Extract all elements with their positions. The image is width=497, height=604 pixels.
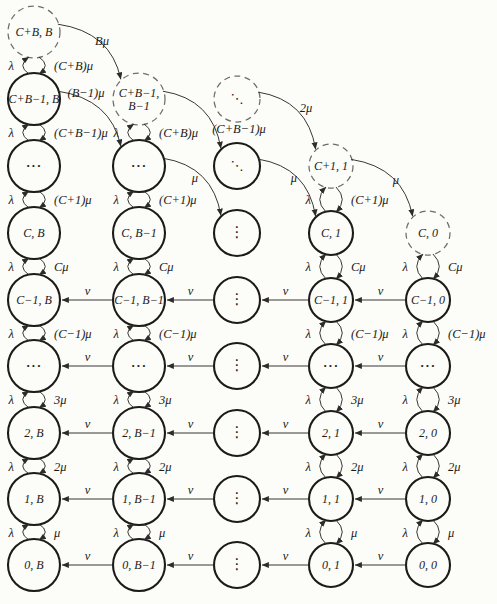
- arrival-rate-label: λ: [8, 193, 15, 207]
- nu-label: ν: [85, 417, 91, 431]
- service-arrow: [433, 454, 439, 478]
- service-arrow: [336, 254, 342, 279]
- state-node-2_B−1: 2, B−1: [113, 407, 165, 459]
- state-node-C−1_1: C−1, 1: [309, 278, 353, 322]
- arrival-arrow: [128, 124, 134, 141]
- arrival-rate-label: λ: [305, 526, 312, 540]
- nu-label: ν: [283, 483, 289, 497]
- state-label: ⋮: [230, 223, 245, 241]
- retrial-arrow-r8-c2: ν: [62, 483, 113, 499]
- arrival-arrow: [320, 454, 326, 478]
- state-node-⋱: ⋱: [214, 76, 260, 122]
- arrival-arrow: [128, 458, 134, 474]
- nu-label: ν: [188, 350, 194, 364]
- state-node-0_B: 0, B: [8, 539, 60, 591]
- state-node-C−1_B−1: C−1, B−1: [113, 274, 165, 326]
- service-rate-label: 2μ: [159, 460, 172, 474]
- service-arrow: [336, 520, 342, 544]
- state-label: C−1, 0: [411, 293, 445, 307]
- rate-pair-c5-r6: λ3μ: [402, 387, 461, 412]
- rate-pair-c2-r7: λ2μ: [113, 458, 172, 474]
- arrival-rate-label: λ: [402, 260, 409, 274]
- arrival-rate-label: λ: [113, 327, 120, 341]
- service-rate-label: (C−1)μ: [54, 327, 92, 341]
- state-node-···: ···: [8, 140, 60, 192]
- state-node-0_1: 0, 1: [309, 543, 353, 587]
- arrival-arrow: [417, 454, 423, 478]
- service-rate-label: μ: [447, 526, 454, 540]
- arrival-arrow: [320, 254, 326, 279]
- service-arrow: [39, 391, 45, 408]
- state-node-···: ···: [113, 340, 165, 392]
- service-arrow: [39, 458, 45, 474]
- arrival-rate-label: λ: [8, 260, 15, 274]
- retrial-arrow-r5-c5: ν: [355, 284, 406, 300]
- arrival-arrow: [128, 258, 134, 275]
- state-label: 2, 1: [322, 426, 340, 440]
- mu-diagonal-label: Bμ: [95, 34, 109, 48]
- state-label: ···: [131, 158, 147, 173]
- state-node-1_1: 1, 1: [309, 477, 353, 521]
- service-arrow: [39, 524, 45, 540]
- state-node-⋮: ⋮: [214, 410, 260, 456]
- state-node-···: ···: [113, 140, 165, 192]
- arrival-arrow: [23, 524, 29, 540]
- rate-pair-c2-r8: λμ: [113, 524, 166, 540]
- service-rate-label: 3μ: [350, 393, 364, 407]
- figure-canvas: C+B, BC+B−1, B···C, BC−1, B···2, B1, B0,…: [0, 0, 497, 604]
- state-node-···: ···: [406, 344, 450, 388]
- state-label: ⋮: [230, 423, 245, 441]
- arrival-rate-label: λ: [305, 460, 312, 474]
- arrival-arrow: [23, 57, 29, 74]
- rate-pair-c4-r3: λ(C+1)μ: [305, 187, 389, 212]
- nu-label: ν: [85, 549, 91, 563]
- state-node-C+B_B: C+B, B: [8, 6, 60, 58]
- arrival-rate-label: λ: [305, 327, 312, 341]
- retrial-arrow-r5-c4: ν: [262, 284, 309, 300]
- arrival-rate-label: λ: [8, 327, 15, 341]
- arrival-rate-label: λ: [8, 526, 15, 540]
- rate-pair-c4-r8: λμ: [305, 520, 358, 544]
- service-arrow: [144, 124, 150, 141]
- retrial-arrow-r9-c2: ν: [62, 549, 113, 565]
- mu-diagonal-arrow: [351, 159, 412, 216]
- state-node-⋮: ⋮: [214, 210, 260, 256]
- rate-pair-c2-r2: λ(C+B)μ: [113, 124, 198, 141]
- state-node-2_B: 2, B: [8, 407, 60, 459]
- nu-label: ν: [283, 350, 289, 364]
- state-label: C+B−1, B: [9, 92, 61, 106]
- service-arrow: [433, 321, 439, 345]
- arrival-rate-label: λ: [8, 59, 15, 73]
- service-arrow: [336, 387, 342, 412]
- nu-label: ν: [378, 549, 384, 563]
- state-node-2_1: 2, 1: [309, 411, 353, 455]
- state-node-1_B−1: 1, B−1: [113, 473, 165, 525]
- arrival-arrow: [128, 391, 134, 408]
- retrial-arrow-r7-c3: ν: [167, 417, 214, 433]
- state-node-⋮: ⋮: [214, 277, 260, 323]
- state-label: C−1, 1: [314, 293, 348, 307]
- state-label: 0, B: [24, 558, 44, 572]
- rate-pair-c4-r5: λ(C−1)μ: [305, 321, 389, 345]
- arrival-arrow: [23, 258, 29, 275]
- nu-label: ν: [188, 284, 194, 298]
- service-rate-label: (C+1)μ: [54, 193, 92, 207]
- arrival-rate-label: λ: [8, 126, 15, 140]
- arrival-arrow: [417, 321, 423, 345]
- arrival-arrow: [23, 191, 29, 208]
- state-label: ···: [26, 158, 42, 173]
- arrival-rate-label: λ: [113, 260, 120, 274]
- state-node-⋮: ⋮: [214, 476, 260, 522]
- state-label: 0, 0: [419, 558, 437, 572]
- arrival-arrow: [320, 321, 326, 345]
- state-label: C, B−1: [121, 226, 156, 240]
- service-rate-label: (C+B−1)μ: [54, 126, 108, 140]
- retrial-arrow-r9-c4: ν: [262, 549, 309, 565]
- state-label: ⋱: [231, 91, 244, 106]
- arrival-arrow: [23, 391, 29, 408]
- service-arrow: [144, 391, 150, 408]
- state-node-0_0: 0, 0: [406, 543, 450, 587]
- service-rate-label: Cμ: [159, 260, 174, 274]
- service-rate-label: (C+1)μ: [159, 193, 197, 207]
- retrial-arrow-r7-c5: ν: [355, 417, 406, 433]
